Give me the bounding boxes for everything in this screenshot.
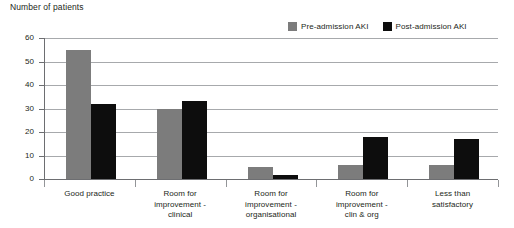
category-label-line: satisfactory [432, 200, 473, 209]
bar-group [316, 38, 407, 179]
bar [454, 139, 479, 179]
y-axis-label-40: 40 [0, 81, 34, 89]
y-axis-label-0: 0 [0, 175, 34, 183]
bar-group [44, 38, 135, 179]
gridline-0 [44, 179, 498, 180]
x-axis-category-label: Room forimprovement -organisational [226, 189, 317, 221]
category-label-line: Room for [345, 189, 378, 198]
x-axis-category-label: Less thansatisfactory [407, 189, 498, 210]
category-separator [135, 180, 136, 187]
bar [338, 165, 363, 179]
category-label-line: clinical [168, 210, 192, 219]
category-label-line: improvement - [336, 200, 388, 209]
bar-group [407, 38, 498, 179]
bar [429, 165, 454, 179]
x-axis-category-label: Good practice [44, 189, 135, 200]
category-separator [316, 180, 317, 187]
category-separator [498, 180, 499, 187]
bars-layer [44, 38, 498, 179]
bar [182, 101, 207, 179]
bar [363, 137, 388, 179]
category-label-line: Room for [254, 189, 287, 198]
category-separator [226, 180, 227, 187]
bar [66, 50, 91, 179]
category-label-line: improvement - [245, 200, 297, 209]
y-axis-label-60: 60 [0, 34, 34, 42]
category-label-line: Good practice [64, 189, 114, 198]
x-axis-category-labels: Good practiceRoom forimprovement -clinic… [44, 189, 498, 227]
bar-chart: Number of patients Pre-admission AKI Pos… [0, 0, 514, 228]
category-separator [407, 180, 408, 187]
category-label-line: organisational [246, 210, 297, 219]
category-label-line: improvement - [154, 200, 206, 209]
plot-area: 0102030405060 Good practiceRoom forimpro… [0, 0, 514, 228]
category-label-line: clin & org [345, 210, 379, 219]
y-axis-label-30: 30 [0, 105, 34, 113]
y-axis-label-50: 50 [0, 58, 34, 66]
category-label-line: Room for [164, 189, 197, 198]
bar [248, 167, 273, 179]
category-separator [44, 180, 45, 187]
bar [273, 175, 298, 179]
y-axis-label-10: 10 [0, 152, 34, 160]
category-label-line: Less than [435, 189, 470, 198]
x-axis-category-label: Room forimprovement -clin & org [316, 189, 407, 221]
x-axis-category-label: Room forimprovement -clinical [135, 189, 226, 221]
bar-group [226, 38, 317, 179]
bar-group [135, 38, 226, 179]
bar [157, 109, 182, 180]
bar [91, 104, 116, 179]
y-axis-label-20: 20 [0, 128, 34, 136]
